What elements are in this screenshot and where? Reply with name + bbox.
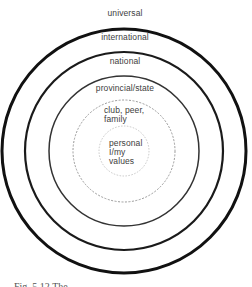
label-provincial-state: provincial/state <box>96 84 154 93</box>
figure-caption: Fig. 5.12 The ... <box>14 281 78 287</box>
label-personal-line3: values <box>109 157 142 166</box>
label-personal-values: personal I/my values <box>109 139 142 166</box>
label-international: international <box>101 33 149 42</box>
label-club-peer-family: club, peer, family <box>104 106 144 124</box>
label-club-line2: family <box>104 115 144 124</box>
label-universal: universal <box>108 9 143 18</box>
label-national: national <box>110 57 141 66</box>
